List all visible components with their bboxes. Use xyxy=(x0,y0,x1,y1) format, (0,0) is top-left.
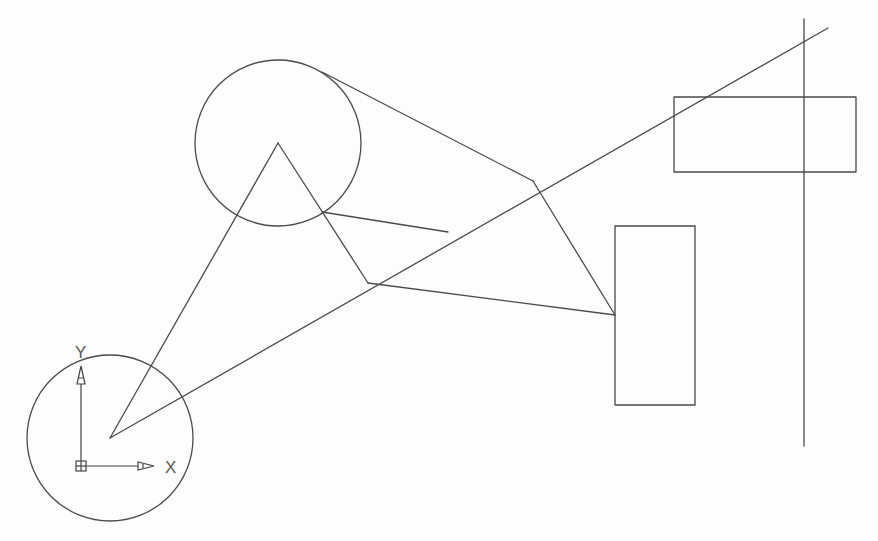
ucs-y-label: Y xyxy=(75,343,86,362)
circle-to-diagonal-line[interactable] xyxy=(322,212,448,232)
triangle-right-leg[interactable] xyxy=(278,143,368,283)
rect-wide[interactable] xyxy=(674,97,856,172)
triangle-left-leg[interactable] xyxy=(110,143,278,438)
tangent-to-vertex-line[interactable] xyxy=(322,72,533,181)
long-diagonal-line[interactable] xyxy=(110,28,828,438)
ucs-x-label: X xyxy=(165,458,176,477)
drawing-canvas[interactable]: Y X xyxy=(0,0,878,541)
rect-tall[interactable] xyxy=(615,226,695,405)
apex-to-rect-line[interactable] xyxy=(368,283,615,315)
ucs-y-arrow-icon xyxy=(77,366,85,384)
vertex-to-rect-line[interactable] xyxy=(533,181,615,315)
ucs-x-arrow-icon xyxy=(138,462,154,470)
